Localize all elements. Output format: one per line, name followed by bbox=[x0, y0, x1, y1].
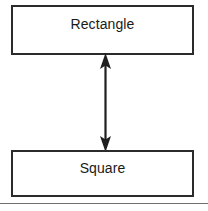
double-headed-arrow-icon bbox=[96, 53, 116, 152]
node-label-rectangle: Rectangle bbox=[13, 16, 192, 32]
diagram-canvas: Rectangle Square bbox=[0, 0, 208, 211]
node-box-rectangle[interactable]: Rectangle bbox=[11, 5, 194, 55]
double-headed-arrow-svg bbox=[96, 53, 116, 152]
node-box-square[interactable]: Square bbox=[11, 150, 194, 197]
node-label-square: Square bbox=[13, 160, 192, 176]
horizontal-rule bbox=[0, 203, 208, 204]
